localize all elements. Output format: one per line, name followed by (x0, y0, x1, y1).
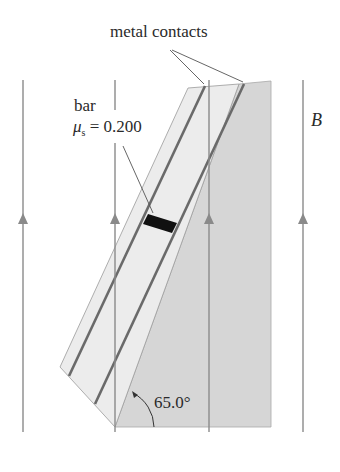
mu-symbol: μ (73, 117, 82, 136)
arrow-up-icon (18, 213, 28, 224)
magnetic-field-label: B (311, 110, 322, 131)
arrow-up-icon (110, 213, 120, 224)
metal-contacts-label: metal contacts (110, 22, 208, 42)
bar-label: bar (74, 96, 96, 116)
leader-contacts-left (170, 50, 204, 84)
arrow-up-icon (298, 213, 308, 224)
mu-subscript: s (82, 127, 86, 138)
mu-value: = 0.200 (90, 117, 142, 136)
friction-coefficient-label: μs = 0.200 (73, 117, 142, 138)
leader-contacts-right (172, 50, 243, 82)
angle-label: 65.0° (154, 393, 191, 413)
